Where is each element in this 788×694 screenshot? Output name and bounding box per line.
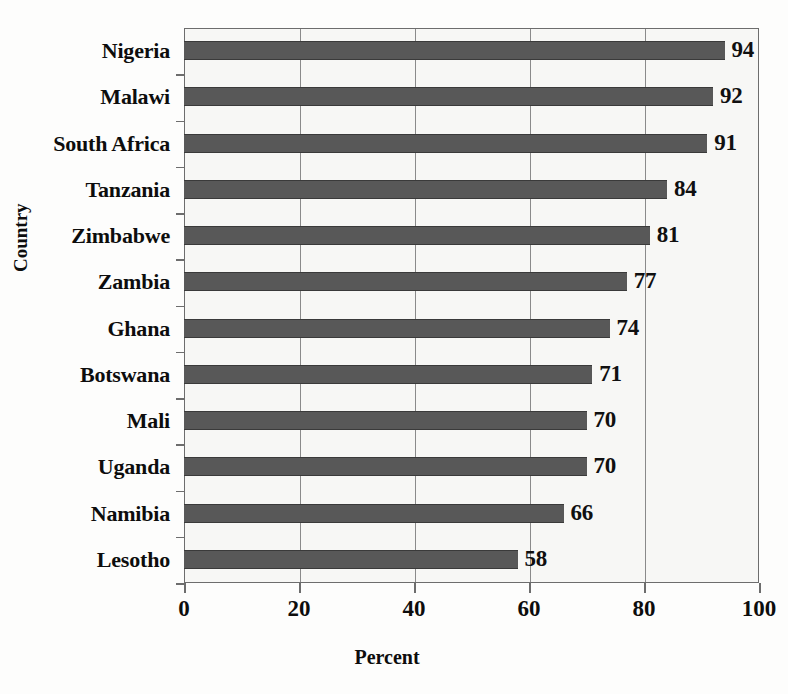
bar-row[interactable]: 84 [184,167,759,213]
bar[interactable] [184,226,650,245]
bar[interactable] [184,365,592,384]
category-label: Namibia [91,491,170,537]
bar[interactable] [184,504,564,523]
bar[interactable] [184,272,627,291]
category-label: Nigeria [102,28,170,74]
chart-canvas: NigeriaMalawiSouth AfricaTanzaniaZimbabw… [0,0,788,694]
category-tick [176,167,185,169]
x-tick-label-80: 80 [633,596,656,622]
x-tick-100 [759,583,761,593]
bar-row[interactable]: 91 [184,121,759,167]
category-tick [176,306,185,308]
x-tick-label-60: 60 [518,596,541,622]
category-label: Mali [127,398,170,444]
bar[interactable] [184,411,587,430]
bar[interactable] [184,319,610,338]
bar-row[interactable]: 66 [184,491,759,537]
bar-value-label: 84 [674,176,696,202]
category-label: Botswana [80,352,170,398]
bar-row[interactable]: 71 [184,352,759,398]
category-tick [176,74,185,76]
y-axis-title: Country [10,203,32,272]
y-axis-category-labels: NigeriaMalawiSouth AfricaTanzaniaZimbabw… [0,28,178,583]
category-tick [176,352,185,354]
bar[interactable] [184,41,725,60]
bar-value-label: 91 [714,130,736,156]
x-tick-80 [644,583,646,593]
x-axis-title: Percent [0,646,788,669]
x-axis-title-text: Percent [354,646,419,669]
bar-row[interactable]: 70 [184,398,759,444]
bar-row[interactable]: 74 [184,306,759,352]
category-label: Malawi [100,74,170,120]
bar[interactable] [184,550,518,569]
x-tick-60 [529,583,531,593]
category-tick [176,537,185,539]
bar-row[interactable]: 94 [184,28,759,74]
bar-value-label: 74 [617,315,639,341]
bar-value-label: 70 [594,407,616,433]
bar-row[interactable]: 81 [184,213,759,259]
category-label: South Africa [53,121,170,167]
bar-row[interactable]: 92 [184,74,759,120]
x-tick-0 [184,583,186,593]
bar[interactable] [184,457,587,476]
bars-layer: 949291848177747170706658 [184,28,759,583]
y-axis-title-text: Country [10,203,31,272]
bar-value-label: 70 [594,453,616,479]
x-tick-label-20: 20 [288,596,311,622]
category-label: Zambia [98,259,170,305]
category-tick [176,491,185,493]
category-label: Uganda [98,444,170,490]
bar-value-label: 94 [732,37,754,63]
category-tick [176,213,185,215]
bar-value-label: 58 [525,546,547,572]
bar[interactable] [184,87,713,106]
x-tick-40 [414,583,416,593]
x-tick-20 [299,583,301,593]
x-tick-label-40: 40 [403,596,426,622]
bar-row[interactable]: 70 [184,444,759,490]
category-label: Tanzania [86,167,170,213]
bar-value-label: 92 [720,83,742,109]
category-label: Zimbabwe [71,213,170,259]
category-tick [176,444,185,446]
category-label: Lesotho [97,537,170,583]
bar-value-label: 66 [571,500,593,526]
bar-row[interactable]: 77 [184,259,759,305]
category-tick [176,398,185,400]
category-tick [176,121,185,123]
category-tick [176,259,185,261]
bar-row[interactable]: 58 [184,537,759,583]
bar-value-label: 71 [599,361,621,387]
bar-value-label: 81 [657,222,679,248]
bar[interactable] [184,180,667,199]
x-tick-label-0: 0 [178,596,190,622]
bar-value-label: 77 [634,268,656,294]
bar[interactable] [184,134,707,153]
category-tick [176,583,185,585]
category-label: Ghana [107,306,170,352]
x-tick-label-100: 100 [742,596,777,622]
